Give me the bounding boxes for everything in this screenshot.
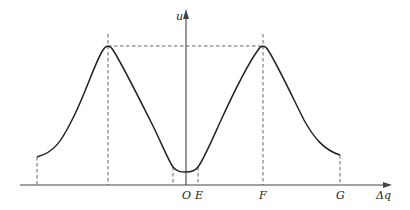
diagram-canvas: u O E F G Δq	[0, 0, 410, 210]
potential-curve	[37, 46, 340, 172]
x-axis-arrow-icon	[383, 182, 392, 188]
label-o: O	[182, 189, 191, 202]
x-axis-label: Δq	[375, 189, 391, 202]
label-g: G	[336, 189, 345, 202]
y-axis-arrow-icon	[183, 9, 189, 19]
y-axis-label: u	[176, 10, 183, 23]
label-f: F	[258, 189, 267, 202]
label-e: E	[194, 189, 203, 202]
